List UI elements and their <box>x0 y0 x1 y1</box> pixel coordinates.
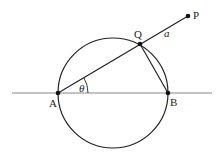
angle-arc <box>84 78 88 93</box>
segment-QB <box>140 44 168 93</box>
label-B: B <box>170 96 177 108</box>
label-Q: Q <box>134 28 142 40</box>
point-A <box>56 91 61 96</box>
label-A: A <box>49 97 57 109</box>
label-P: P <box>193 9 199 21</box>
geometry-diagram: A B Q P θ a <box>0 0 223 155</box>
length-label-a: a <box>164 27 170 39</box>
point-Q <box>138 42 143 47</box>
point-P <box>186 14 191 19</box>
point-B <box>166 91 171 96</box>
angle-label-theta: θ <box>79 82 85 94</box>
